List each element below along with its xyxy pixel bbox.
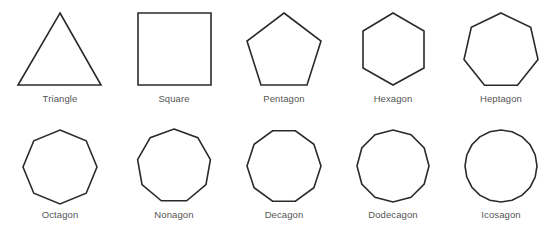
pentagon-shape: [247, 13, 321, 85]
label-heptagon: Heptagon: [480, 93, 522, 104]
label-square: Square: [158, 93, 189, 104]
polygons-diagram: [0, 0, 555, 229]
label-decagon: Decagon: [265, 209, 304, 220]
label-hexagon: Hexagon: [374, 93, 413, 104]
label-triangle: Triangle: [43, 93, 78, 104]
triangle-shape: [18, 13, 101, 85]
label-icosagon: Icosagon: [481, 209, 520, 220]
label-dodecagon: Dodecagon: [368, 209, 418, 220]
octagon-shape: [23, 130, 97, 204]
dodecagon-shape: [357, 130, 429, 202]
icosagon-shape: [465, 130, 537, 202]
label-pentagon: Pentagon: [263, 93, 304, 104]
square-shape: [138, 13, 211, 85]
label-nonagon: Nonagon: [154, 209, 193, 220]
nonagon-shape: [138, 129, 211, 201]
heptagon-shape: [464, 13, 538, 85]
label-octagon: Octagon: [42, 209, 79, 220]
decagon-shape: [247, 131, 321, 201]
hexagon-shape: [363, 13, 424, 85]
